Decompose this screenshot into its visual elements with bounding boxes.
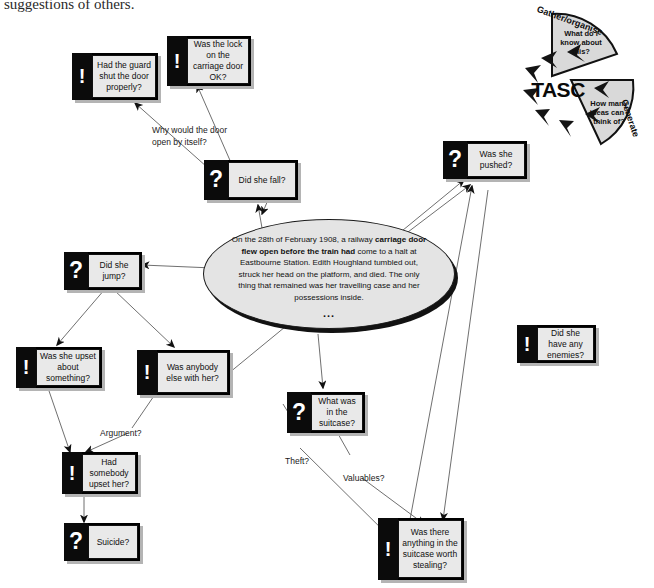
node-label: Suicide? [88, 525, 138, 559]
node-label: Did she have any enemies? [537, 327, 594, 361]
node-label: Was she upset about something? [36, 349, 100, 386]
node-did-she-fall[interactable]: ? Did she fall? [204, 160, 298, 200]
question-mark-icon: ? [443, 141, 467, 179]
scenario-line-1: On the 28th of February 1908, a railway [232, 235, 373, 244]
central-scenario-ellipse: On the 28th of February 1908, a railway … [203, 219, 455, 329]
question-mark-icon: ? [287, 392, 311, 433]
node-had-somebody-upset-her[interactable]: ! Had somebody upset her? [62, 452, 138, 494]
node-label: Did she jump? [88, 254, 140, 288]
scenario-line-7: possessions inside. [294, 293, 363, 302]
scenario-continuation: ... [323, 307, 335, 319]
exclamation-idea-icon: ! [62, 452, 82, 494]
exclamation-idea-icon: ! [16, 347, 36, 388]
node-was-she-upset-about-something[interactable]: ! Was she upset about something? [16, 347, 102, 388]
question-mark-icon: ? [64, 252, 88, 290]
node-label: Had the guard shut the door properly? [92, 55, 156, 98]
exclamation-idea-icon: ! [167, 36, 187, 86]
exclamation-idea-icon: ! [517, 325, 537, 363]
node-label: Had somebody upset her? [82, 454, 136, 492]
edge-label-argument: Argument? [100, 427, 142, 439]
node-did-she-have-any-enemies[interactable]: ! Did she have any enemies? [517, 325, 596, 363]
edge-label-valuables: Valuables? [343, 472, 384, 484]
node-worth-stealing[interactable]: ! Was there anything in the suitcase wor… [378, 518, 464, 580]
edge-label-why-door-open: Why would the door open by itself? [152, 124, 227, 148]
exclamation-idea-icon: ! [72, 53, 92, 100]
question-mark-icon: ? [204, 160, 228, 200]
edge-label-theft: Theft? [285, 455, 309, 467]
question-mark-icon: ? [64, 523, 88, 561]
node-guard-shut-door[interactable]: ! Had the guard shut the door properly? [72, 53, 158, 100]
node-label: Was anybody else with her? [157, 352, 228, 393]
node-label: Was there anything in the suitcase worth… [398, 520, 462, 578]
exclamation-idea-icon: ! [378, 518, 398, 580]
node-suicide[interactable]: ? Suicide? [64, 523, 140, 561]
exclamation-idea-icon: ! [137, 350, 157, 395]
node-what-was-in-the-suitcase[interactable]: ? What was in the suitcase? [287, 392, 365, 433]
node-was-anybody-else-with-her[interactable]: ! Was anybody else with her? [137, 350, 230, 395]
tasc-wheel: TASC What do I know about this? How many… [505, 2, 653, 152]
node-label: Did she fall? [228, 162, 296, 198]
node-did-she-jump[interactable]: ? Did she jump? [64, 252, 142, 290]
node-lock-on-carriage-door[interactable]: ! Was the lock on the carriage door OK? [167, 36, 251, 86]
scenario-text: On the 28th of February 1908, a railway … [230, 234, 428, 303]
node-label: Was the lock on the carriage door OK? [187, 38, 249, 84]
scenario-line-6: remained was her travelling case and her [273, 281, 419, 290]
node-label: What was in the suitcase? [311, 394, 363, 431]
